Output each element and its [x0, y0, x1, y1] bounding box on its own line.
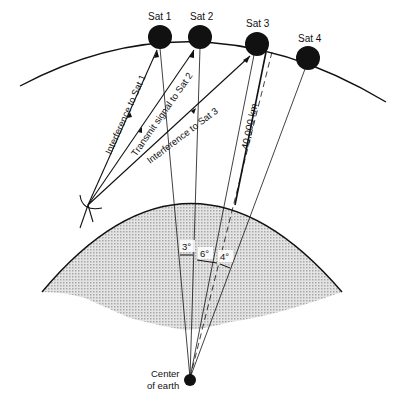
satellite-interference-diagram: 40,000 km Interference to Sat 1 Transmit… [0, 0, 402, 407]
center-label-line2: of earth [147, 380, 179, 391]
satellite-dot-icon [188, 25, 212, 49]
sat3-label: Sat 3 [246, 18, 270, 29]
earth-center-dot [184, 374, 196, 386]
satellite-dot-icon [245, 32, 269, 56]
geostationary-orbit-arc [20, 42, 386, 102]
satellite-dot-icon [296, 46, 320, 70]
distance-label: 40,000 km [239, 102, 259, 150]
sat1-label: Sat 1 [148, 11, 172, 22]
satellite-dot-icon [148, 25, 172, 49]
sat4-label: Sat 4 [298, 33, 322, 44]
angle-label-6deg: 6° [200, 248, 209, 259]
sat2-label: Sat 2 [190, 11, 214, 22]
angle-label-4deg: 4° [220, 251, 229, 262]
center-label-line1: Center [151, 368, 180, 379]
satellites [148, 25, 320, 70]
signal-lines [88, 50, 250, 205]
angle-label-3deg: 3° [182, 241, 191, 252]
